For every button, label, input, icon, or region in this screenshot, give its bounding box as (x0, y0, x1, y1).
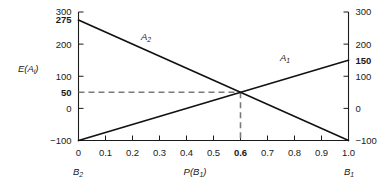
tick-label: 0 (76, 147, 81, 158)
tick-label: −100 (50, 135, 71, 146)
tick-label: 200 (56, 39, 72, 50)
chart-container: 300275200100500−100 3002001501000−100 00… (0, 0, 388, 184)
tick-label: 0 (66, 103, 71, 114)
tick-label: 0.9 (315, 147, 328, 158)
tick-label: 1.0 (342, 147, 355, 158)
y-right-tick-labels: 3002001501000−100 (356, 6, 377, 146)
tick-label: 300 (356, 6, 372, 17)
tick-label: −100 (356, 135, 377, 146)
curve-label-a2: A2 (140, 31, 151, 43)
data-series-group (79, 20, 349, 140)
y-left-tick-marks (79, 12, 84, 141)
series-line-a2 (79, 20, 349, 140)
curve-label-a1: A1 (279, 52, 290, 64)
tick-label: 0.1 (99, 147, 112, 158)
y-left-tick-labels: 300275200100500−100 (50, 6, 72, 146)
tick-label: 50 (61, 87, 72, 98)
tick-label: 200 (356, 39, 372, 50)
tick-label: 100 (356, 71, 372, 82)
tick-label: 0.3 (153, 147, 166, 158)
tick-label: 275 (56, 14, 73, 25)
tick-label: 0.6 (234, 147, 247, 158)
tick-label: 0 (356, 103, 361, 114)
x-axis-title: P(B1) (184, 166, 207, 178)
tick-label: 100 (56, 71, 72, 82)
series-line-a1 (79, 60, 349, 140)
y-axis-title: E(Ai) (18, 63, 39, 75)
x-axis-tick-labels: 00.10.20.30.40.50.60.70.80.91.0 (76, 147, 355, 158)
tick-label: 150 (356, 55, 372, 66)
expected-value-chart: 300275200100500−100 3002001501000−100 00… (0, 0, 388, 184)
tick-label: 0.7 (261, 147, 274, 158)
y-right-tick-marks (344, 12, 349, 141)
tick-label: 0.4 (180, 147, 193, 158)
x-axis-tick-marks (106, 136, 322, 141)
x-axis-right-end-label: B1 (344, 166, 354, 178)
tick-label: 0.8 (288, 147, 301, 158)
tick-label: 0.5 (207, 147, 220, 158)
axis-group (79, 12, 349, 141)
x-axis-left-end-label: B2 (73, 166, 83, 178)
tick-label: 0.2 (126, 147, 139, 158)
